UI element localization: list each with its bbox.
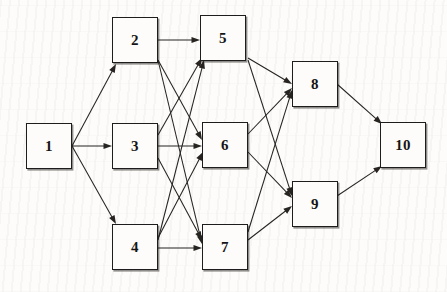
graph-node-3[interactable]: 3 — [112, 123, 158, 169]
edge-shaft — [72, 70, 113, 146]
edge-arrowhead-icon — [194, 143, 203, 149]
graph-node-9[interactable]: 9 — [292, 181, 338, 227]
edge-arrowhead-icon — [109, 64, 116, 73]
graph-edge-3-to-6 — [158, 143, 202, 149]
edge-shaft — [158, 158, 199, 234]
edge-shaft — [337, 84, 377, 119]
edge-arrowhead-icon — [195, 131, 202, 140]
graph-edge-4-to-6 — [158, 152, 203, 238]
edge-arrowhead-icon — [109, 215, 116, 224]
graph-edge-1-to-4 — [72, 146, 116, 224]
graph-node-10[interactable]: 10 — [380, 122, 426, 168]
graph-node-label: 1 — [45, 138, 53, 153]
edge-shaft — [248, 93, 287, 134]
graph-node-1[interactable]: 1 — [26, 123, 72, 169]
graph-edge-2-to-6 — [158, 60, 202, 140]
graph-node-4[interactable]: 4 — [112, 224, 158, 270]
graph-node-6[interactable]: 6 — [202, 122, 248, 168]
graph-diagram: 12345678910 — [0, 0, 447, 292]
edge-shaft — [72, 146, 113, 218]
graph-node-label: 9 — [311, 196, 319, 211]
edge-shaft — [248, 97, 290, 232]
graph-node-label: 5 — [219, 30, 227, 45]
graph-node-label: 8 — [311, 76, 319, 91]
edge-arrowhead-icon — [194, 245, 203, 251]
graph-node-label: 7 — [221, 239, 229, 254]
graph-node-label: 2 — [131, 32, 139, 47]
graph-node-label: 6 — [221, 137, 229, 152]
graph-node-label: 3 — [131, 138, 139, 153]
graph-node-label: 4 — [131, 239, 139, 254]
graph-edge-4-to-7 — [158, 245, 202, 251]
graph-edge-3-to-5 — [158, 58, 202, 135]
edge-arrowhead-icon — [283, 77, 292, 84]
edge-shaft — [248, 152, 287, 193]
edge-shaft — [337, 170, 376, 196]
graph-node-5[interactable]: 5 — [200, 15, 246, 61]
edge-shaft — [158, 67, 202, 240]
graph-edge-8-to-10 — [337, 84, 382, 124]
graph-node-8[interactable]: 8 — [292, 61, 338, 107]
graph-edge-1-to-3 — [72, 143, 112, 149]
edge-arrowhead-icon — [192, 37, 201, 43]
edge-arrowhead-icon — [283, 206, 292, 214]
edge-shaft — [158, 60, 199, 134]
edge-arrowhead-icon — [104, 143, 113, 149]
graph-edge-1-to-2 — [72, 64, 116, 146]
graph-edge-9-to-10 — [337, 166, 382, 196]
graph-edge-2-to-5 — [158, 37, 200, 43]
edge-shaft — [158, 64, 199, 135]
graph-node-7[interactable]: 7 — [202, 224, 248, 270]
graph-edge-3-to-7 — [158, 158, 202, 240]
graph-node-2[interactable]: 2 — [112, 17, 158, 63]
graph-edge-4-to-5 — [158, 60, 205, 240]
graph-node-label: 10 — [395, 137, 411, 152]
